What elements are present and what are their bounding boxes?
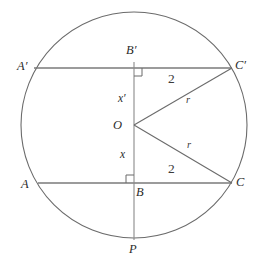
measure-label-x-prime: x′ xyxy=(118,93,126,105)
point-label-a-prime: A′ xyxy=(17,60,27,73)
measure-label-two-lower: 2 xyxy=(168,162,175,176)
measure-label-radius-upper: r xyxy=(186,95,190,106)
geometry-canvas xyxy=(0,0,259,265)
point-label-p: P xyxy=(129,243,137,256)
point-label-b: B xyxy=(136,186,144,199)
radius-line-upper xyxy=(134,68,232,125)
point-label-b-prime: B′ xyxy=(126,44,136,57)
measure-label-radius-lower: r xyxy=(187,140,191,151)
right-angle-marker-upper xyxy=(134,68,142,76)
point-label-o: O xyxy=(113,119,122,132)
measure-label-two-upper: 2 xyxy=(168,72,175,86)
measure-label-x: x xyxy=(120,149,125,161)
right-angle-marker-lower xyxy=(126,175,134,183)
point-label-a: A xyxy=(21,178,29,191)
point-label-c: C xyxy=(236,176,244,189)
radius-line-lower xyxy=(134,125,232,183)
geometry-diagram: A′ B′ C′ A B C O P 2 2 r r x′ x xyxy=(0,0,259,265)
point-label-c-prime: C′ xyxy=(235,59,246,72)
